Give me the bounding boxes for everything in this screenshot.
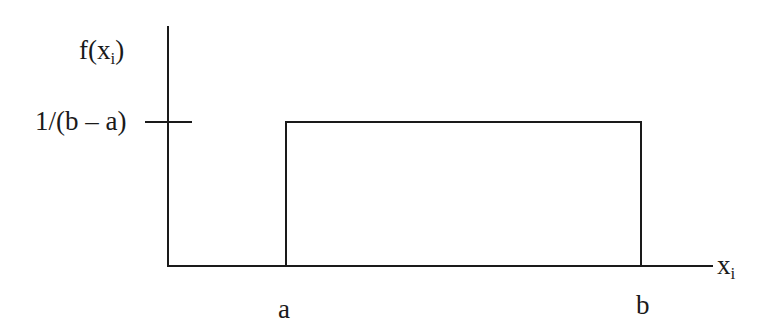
height-label: 1/(b – a) bbox=[35, 108, 126, 135]
lower-bound-label: a bbox=[278, 296, 290, 323]
upper-bound-label: b bbox=[636, 292, 650, 319]
density-rectangle bbox=[286, 122, 641, 266]
y-axis-label: f(xi) bbox=[79, 37, 124, 64]
x-axis-label: xi bbox=[717, 252, 735, 279]
